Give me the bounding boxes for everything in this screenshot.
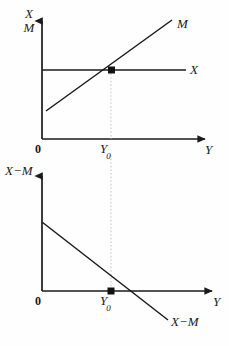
top-panel-axes	[42, 21, 205, 139]
imports-curve-label: M	[177, 17, 188, 30]
bottom-x-axis-label: Y	[213, 295, 220, 308]
top-x-axis-label: Y	[205, 143, 212, 156]
top-y-axis-label-x: X	[20, 7, 38, 21]
top-intersection-point	[108, 67, 115, 74]
bottom-xtick-y0-sub: 0	[106, 303, 111, 313]
bottom-panel-axes	[42, 176, 212, 291]
net-exports-curve-label: X−M	[171, 315, 199, 328]
bottom-xtick-y0-label: Y0	[100, 294, 112, 311]
exports-curve-label: X	[190, 63, 198, 76]
top-origin-label: 0	[35, 143, 41, 155]
bottom-y-axis-label: X−M	[5, 164, 33, 177]
top-y-axis-label: X M	[20, 7, 38, 35]
top-xtick-y0-label: Y0	[100, 142, 112, 159]
top-xtick-y0-sub: 0	[106, 151, 111, 161]
top-y-axis-label-m: M	[20, 21, 38, 35]
economics-diagram-figure: X M M X 0 Y0 Y X−M 0 Y0 Y X−M	[0, 0, 229, 346]
bottom-origin-label: 0	[35, 295, 41, 307]
imports-line-m	[46, 20, 172, 111]
